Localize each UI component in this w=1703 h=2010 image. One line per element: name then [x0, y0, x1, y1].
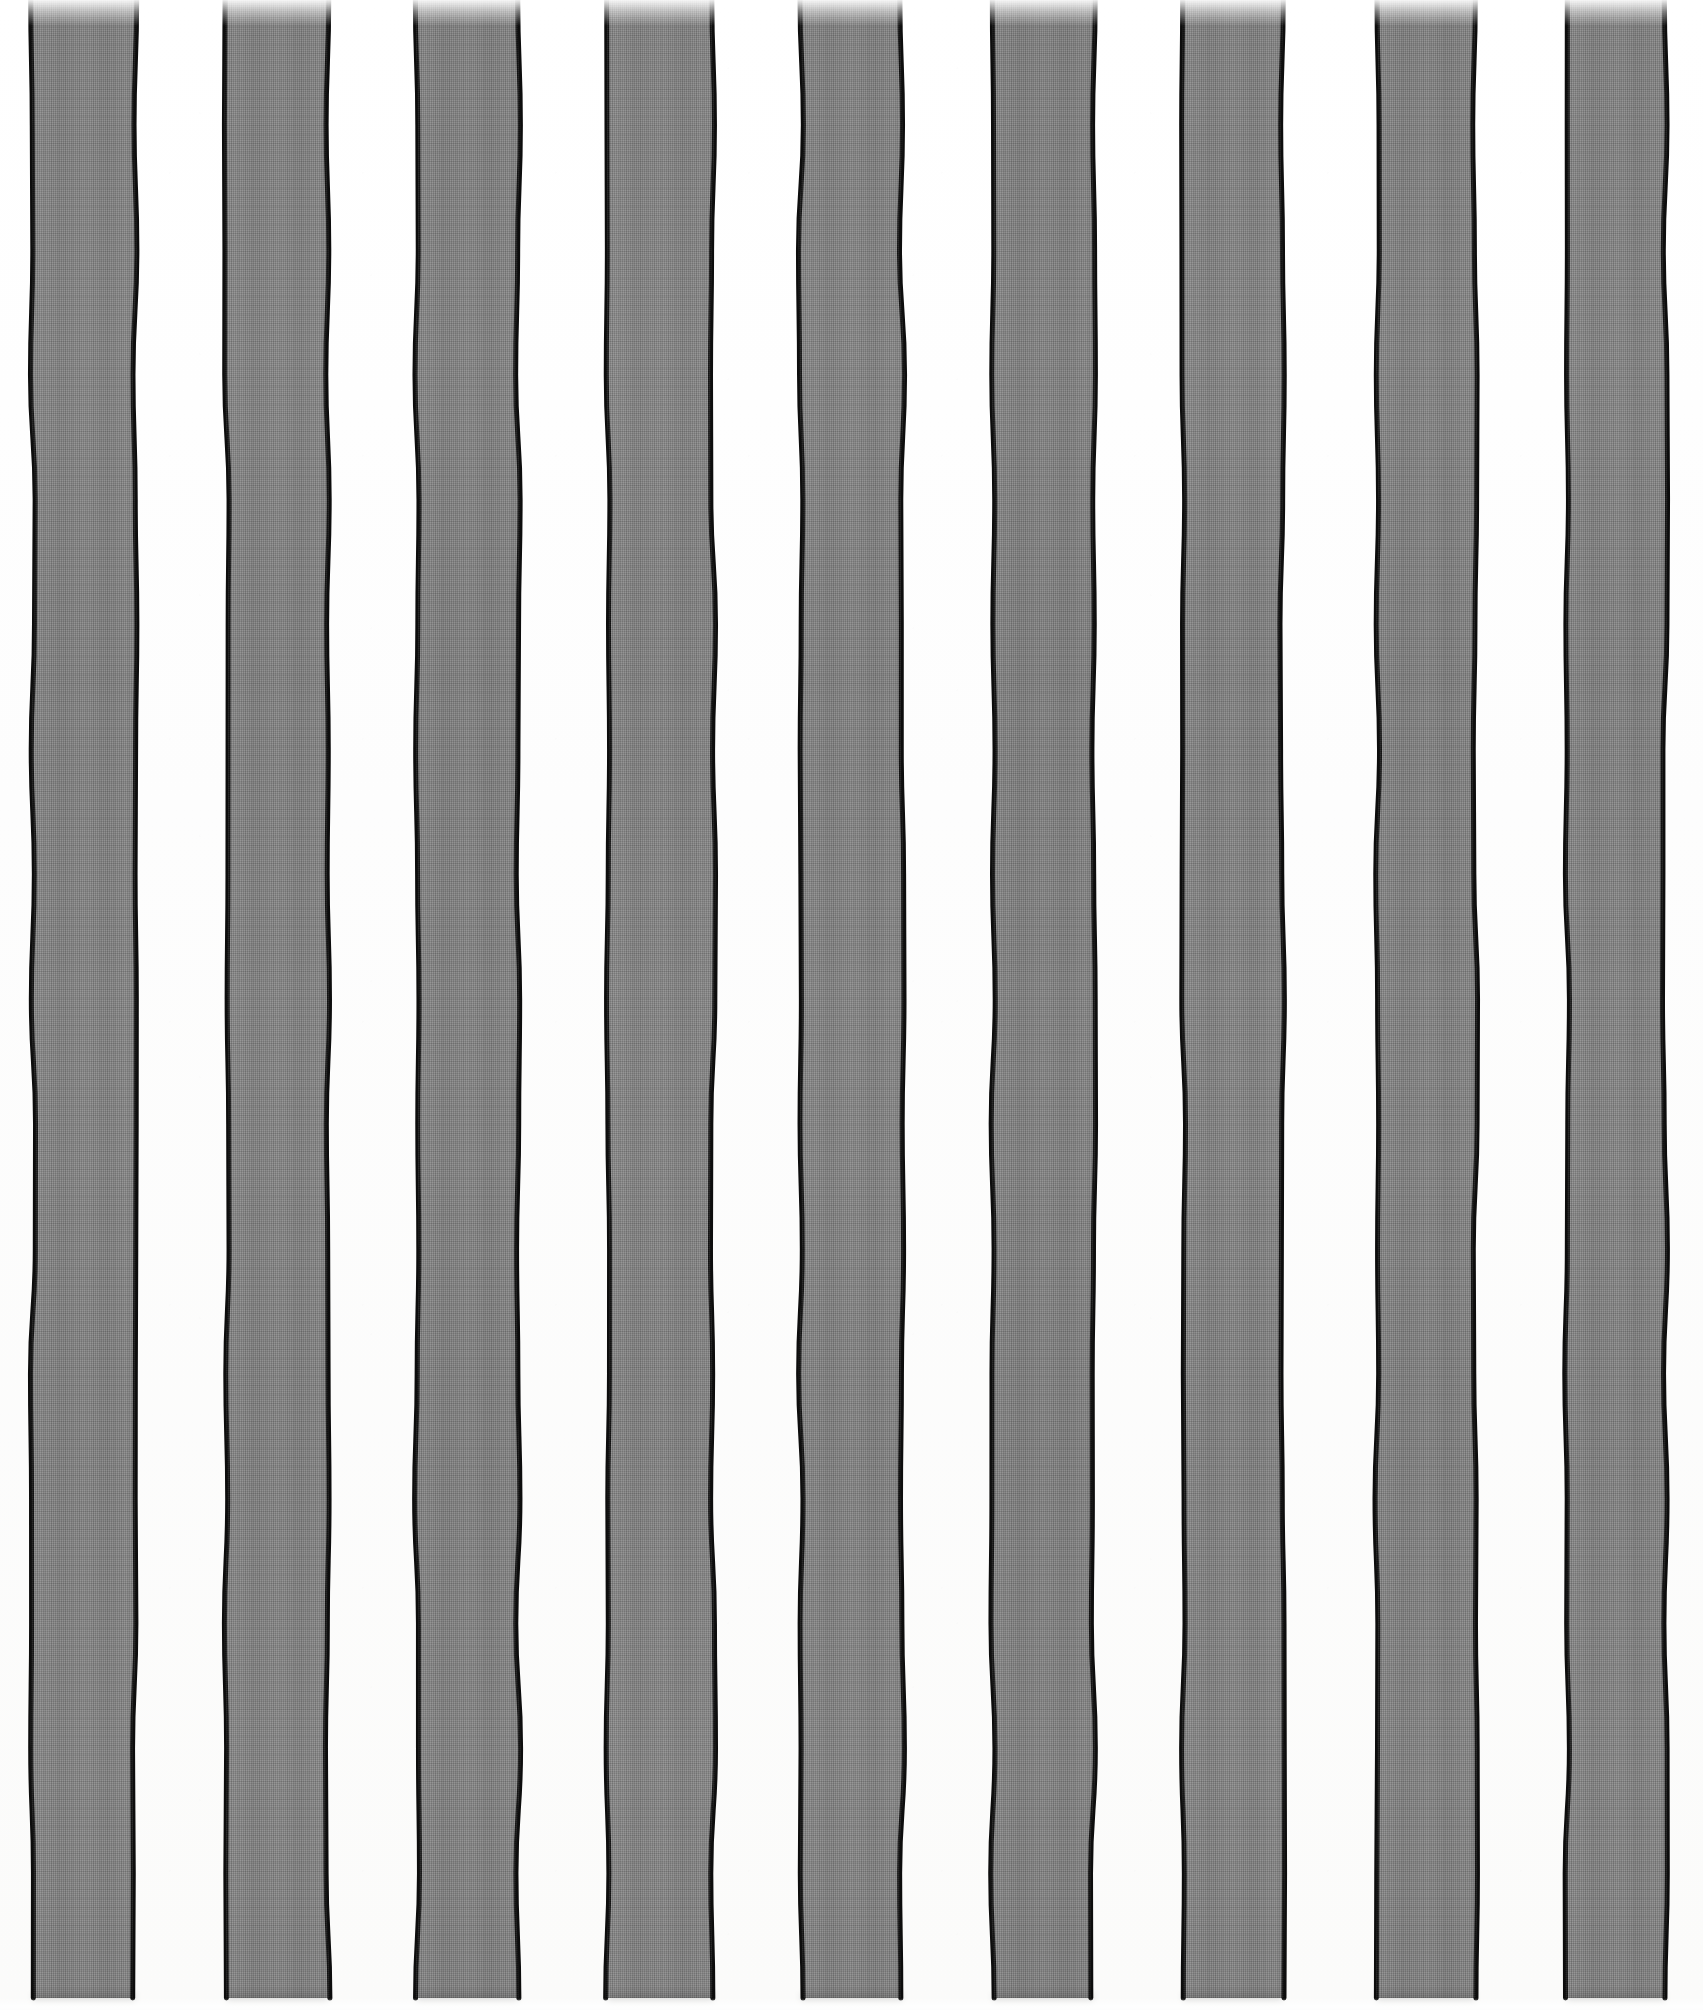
tone-band-layer — [1367, 0, 1485, 1998]
stripe-1 — [23, 0, 145, 1998]
tone-band-layer — [217, 0, 338, 1998]
weave-layer — [791, 0, 912, 1998]
brush-band-layer — [791, 0, 912, 1998]
weave-layer — [1557, 0, 1675, 1998]
weave-coarse-layer — [1367, 0, 1485, 1998]
brush-band-layer — [407, 0, 528, 1998]
stripe-texture — [23, 0, 145, 1998]
weave-layer — [1367, 0, 1485, 1998]
tone-band-layer — [407, 0, 528, 1998]
weave-layer — [983, 0, 1103, 1998]
stripe-8 — [1367, 0, 1485, 1998]
tone-band-layer — [983, 0, 1103, 1998]
stripe-texture — [598, 0, 723, 1998]
stripe-texture — [983, 0, 1103, 1998]
stripe-texture — [791, 0, 912, 1998]
stripe-3 — [407, 0, 528, 1998]
stripe-7 — [1173, 0, 1292, 1998]
weave-coarse-layer — [598, 0, 723, 1998]
brush-band-layer — [1557, 0, 1675, 1998]
brush-band-layer — [1173, 0, 1292, 1998]
weave-coarse-layer — [791, 0, 912, 1998]
artwork-canvas — [0, 0, 1703, 2010]
stripe-5 — [791, 0, 912, 1998]
weave-layer — [598, 0, 723, 1998]
stripe-9 — [1557, 0, 1675, 1998]
weave-coarse-layer — [1557, 0, 1675, 1998]
weave-layer — [217, 0, 338, 1998]
weave-coarse-layer — [23, 0, 145, 1998]
tone-band-layer — [598, 0, 723, 1998]
stripe-field — [0, 0, 1703, 2010]
weave-coarse-layer — [217, 0, 338, 1998]
stripe-4 — [598, 0, 723, 1998]
weave-layer — [23, 0, 145, 1998]
stripe-2 — [217, 0, 338, 1998]
stripe-texture — [1173, 0, 1292, 1998]
tone-band-layer — [23, 0, 145, 1998]
weave-layer — [407, 0, 528, 1998]
stripe-texture — [407, 0, 528, 1998]
stripe-texture — [1557, 0, 1675, 1998]
brush-band-layer — [23, 0, 145, 1998]
brush-band-layer — [1367, 0, 1485, 1998]
brush-band-layer — [598, 0, 723, 1998]
tone-band-layer — [791, 0, 912, 1998]
weave-coarse-layer — [407, 0, 528, 1998]
weave-layer — [1173, 0, 1292, 1998]
brush-band-layer — [217, 0, 338, 1998]
weave-coarse-layer — [983, 0, 1103, 1998]
tone-band-layer — [1557, 0, 1675, 1998]
tone-band-layer — [1173, 0, 1292, 1998]
brush-band-layer — [983, 0, 1103, 1998]
weave-coarse-layer — [1173, 0, 1292, 1998]
stripe-texture — [217, 0, 338, 1998]
stripe-texture — [1367, 0, 1485, 1998]
stripe-6 — [983, 0, 1103, 1998]
